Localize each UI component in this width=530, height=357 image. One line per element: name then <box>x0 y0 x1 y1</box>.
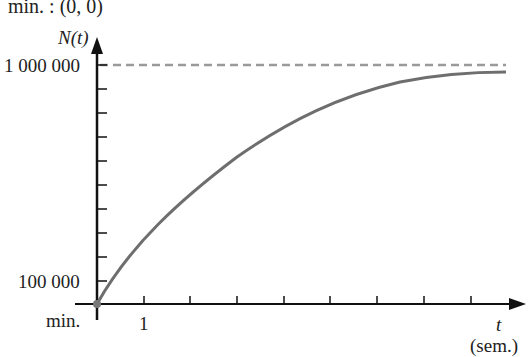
series-line-N <box>97 72 506 304</box>
y-ticks <box>97 65 107 281</box>
plot-area <box>0 0 530 357</box>
x-axis-arrow-icon <box>509 298 526 310</box>
origin-point <box>93 300 101 308</box>
y-axis-arrow-icon <box>91 37 103 54</box>
x-ticks <box>144 296 471 304</box>
